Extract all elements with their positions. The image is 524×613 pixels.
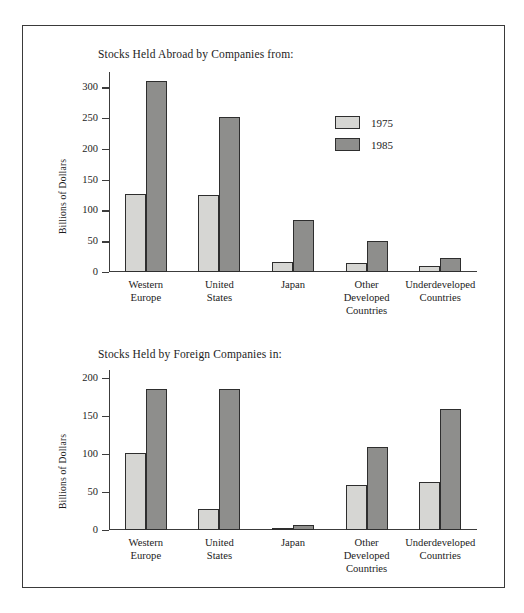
bar-1975 <box>419 266 440 272</box>
y-tick-mark <box>102 149 109 150</box>
bar-1975 <box>125 194 146 272</box>
y-tick-mark <box>102 416 109 417</box>
y-tick-label: 300 <box>82 82 98 93</box>
y-tick-label: 0 <box>93 267 98 278</box>
y-tick-label: 100 <box>82 205 98 216</box>
bar-1985 <box>219 117 240 272</box>
y-tick-label: 0 <box>93 525 98 536</box>
bar-1975 <box>346 485 367 530</box>
y-tick-mark <box>102 492 109 493</box>
bar-1985 <box>293 525 314 530</box>
bar-group: OtherDevelopedCountries <box>330 72 404 272</box>
y-axis-label-top: Billions of Dollars <box>57 159 68 234</box>
bar-group: WesternEurope <box>109 370 183 530</box>
y-tick-mark <box>102 272 109 273</box>
bar-group: UnderdevelopedCountries <box>403 370 477 530</box>
chart-stocks-held-abroad: Stocks Held Abroad by Companies from: Bi… <box>23 44 504 314</box>
bar-group: UnderdevelopedCountries <box>403 72 477 272</box>
chart-stocks-held-by-foreign: Stocks Held by Foreign Companies in: Bil… <box>23 344 504 589</box>
plot-area-top: 050100150200250300 WesternEuropeUnitedSt… <box>109 72 477 272</box>
bar-1975 <box>272 528 293 530</box>
y-tick-label: 50 <box>88 487 99 498</box>
bar-1985 <box>367 241 388 272</box>
bar-1985 <box>367 447 388 530</box>
y-tick-label: 200 <box>82 372 98 383</box>
y-tick-label: 250 <box>82 113 98 124</box>
y-tick-mark <box>102 530 109 531</box>
legend-item-1985: 1985 <box>335 138 393 151</box>
bar-groups-top: WesternEuropeUnitedStatesJapanOtherDevel… <box>109 72 477 272</box>
bar-1985 <box>440 258 461 272</box>
bar-group: WesternEurope <box>109 72 183 272</box>
bar-1975 <box>419 482 440 530</box>
y-tick-mark <box>102 180 109 181</box>
chart-title-top: Stocks Held Abroad by Companies from: <box>98 48 294 60</box>
plot-area-bottom: 050100150200 WesternEuropeUnitedStatesJa… <box>109 370 477 530</box>
bar-1975 <box>272 262 293 272</box>
legend-item-1975: 1975 <box>335 116 393 129</box>
chart-title-bottom: Stocks Held by Foreign Companies in: <box>98 348 282 360</box>
bar-group: Japan <box>256 370 330 530</box>
y-tick-mark <box>102 378 109 379</box>
y-axis-label-bottom: Billions of Dollars <box>57 434 68 509</box>
legend-swatch-1985-icon <box>335 138 360 151</box>
y-tick-label: 150 <box>82 174 98 185</box>
figure-frame: Stocks Held Abroad by Companies from: Bi… <box>22 25 505 588</box>
y-tick-mark <box>102 118 109 119</box>
bar-1975 <box>198 509 219 530</box>
x-category-label: UnderdevelopedCountries <box>375 279 505 305</box>
y-tick-label: 200 <box>82 144 98 155</box>
y-tick-label: 100 <box>82 449 98 460</box>
bar-1975 <box>346 263 367 272</box>
legend-label-1975: 1975 <box>371 117 393 129</box>
y-tick-mark <box>102 454 109 455</box>
bar-1985 <box>146 81 167 272</box>
bar-1985 <box>440 409 461 530</box>
legend-swatch-1975-icon <box>335 116 360 129</box>
bar-group: Japan <box>256 72 330 272</box>
bar-1975 <box>125 453 146 530</box>
bar-group: UnitedStates <box>183 72 257 272</box>
legend: 1975 1985 <box>335 116 393 160</box>
y-tick-mark <box>102 87 109 88</box>
x-category-label: UnderdevelopedCountries <box>375 537 505 563</box>
bar-1975 <box>198 195 219 272</box>
bar-1985 <box>146 389 167 530</box>
bar-1985 <box>293 220 314 272</box>
y-tick-mark <box>102 241 109 242</box>
legend-label-1985: 1985 <box>371 139 393 151</box>
bar-group: UnitedStates <box>183 370 257 530</box>
y-tick-label: 50 <box>88 236 99 247</box>
bar-1985 <box>219 389 240 530</box>
y-tick-label: 150 <box>82 410 98 421</box>
bar-group: OtherDevelopedCountries <box>330 370 404 530</box>
bar-groups-bottom: WesternEuropeUnitedStatesJapanOtherDevel… <box>109 370 477 530</box>
y-tick-mark <box>102 210 109 211</box>
